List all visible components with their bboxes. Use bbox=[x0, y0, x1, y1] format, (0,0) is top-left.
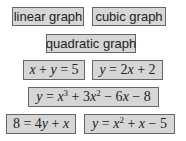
equation-card-8-eq-4y-plus-x[interactable]: 8 = 4y + x bbox=[6, 114, 76, 134]
equation-text: x + y = 5 bbox=[29, 62, 78, 78]
equation-text: y = 2x + 2 bbox=[99, 62, 155, 78]
label-card-quadratic-graph[interactable]: quadratic graph bbox=[46, 34, 136, 53]
equation-text: y = x2 + x − 5 bbox=[92, 116, 167, 132]
label-card-linear-graph[interactable]: linear graph bbox=[12, 7, 84, 26]
equation-card-x-plus-y-eq-5[interactable]: x + y = 5 bbox=[23, 60, 85, 80]
equation-card-cubic[interactable]: y = x3 + 3x2 − 6x − 8 bbox=[28, 87, 159, 107]
label-card-cubic-graph[interactable]: cubic graph bbox=[92, 7, 166, 26]
equation-text: 8 = 4y + x bbox=[13, 116, 69, 132]
equation-card-y-eq-2x-plus-2[interactable]: y = 2x + 2 bbox=[92, 60, 163, 80]
equation-card-quadratic[interactable]: y = x2 + x − 5 bbox=[84, 114, 175, 134]
equation-text: y = x3 + 3x2 − 6x − 8 bbox=[36, 89, 151, 105]
